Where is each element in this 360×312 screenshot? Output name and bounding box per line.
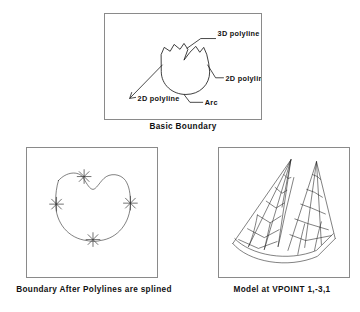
leader-2d-polyline-right [208,65,224,78]
mesh-contour-l6 [239,240,277,249]
caption-splined-boundary: Boundary After Polylines are splined [0,285,188,294]
mesh-right-peak-left-edge [288,162,317,251]
label-arc: Arc [205,98,218,107]
mesh-left-peak-ridge [264,160,291,250]
mesh-valley-line [278,178,294,247]
mesh-right-peak-ridge [317,162,322,245]
panel-basic-boundary: 3D polyline 2D polyline 2D polyline Arc [104,13,262,120]
basic-boundary-drawing: 3D polyline 2D polyline 2D polyline Arc [105,14,261,119]
mesh-right-peak-inner [305,162,317,248]
splined-boundary-drawing [27,148,157,277]
caption-basic-boundary: Basic Boundary [104,122,262,131]
mesh-long-3 [298,224,305,255]
mesh-left-peak-inner-b [282,160,291,207]
mesh-left-peak-left-edge [233,160,291,244]
boundary-outline [161,43,209,94]
mesh-contour-r4 [295,219,328,230]
mesh-base-rim-front [233,239,335,263]
label-2d-polyline-left: 2D polyline [138,94,180,103]
mesh-contour-l1 [284,175,291,179]
mesh-contour-r1 [313,175,321,180]
leader-3d-polyline [187,39,216,49]
vertex-marker-mid-left [50,197,64,211]
mesh-contour-r3 [301,204,326,214]
mesh-contour-r2 [307,189,323,197]
leader-arc [184,94,203,102]
vertex-marker-mid-right [124,196,138,210]
splined-boundary-outline [56,173,131,241]
label-2d-polyline-right: 2D polyline [225,74,261,83]
panel-splined-boundary [26,147,158,278]
panel-model-vpoint [218,147,350,278]
vertex-marker-top-left [77,170,91,184]
caption-model-vpoint: Model at VPOINT 1,-3,1 [206,285,358,294]
model-vpoint-drawing [219,148,349,277]
vertex-marker-bottom-center [86,233,100,247]
label-3d-polyline: 3D polyline [218,29,260,38]
figure-root: 3D polyline 2D polyline 2D polyline Arc … [0,0,360,312]
mesh-contour-r5 [290,235,331,241]
wireframe-mesh [233,160,335,263]
